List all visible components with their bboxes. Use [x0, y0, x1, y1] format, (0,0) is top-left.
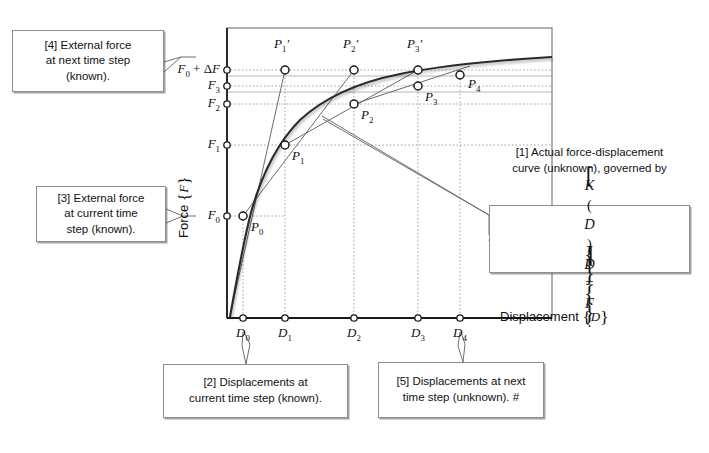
point-label-p2: P2 — [361, 107, 373, 125]
point-marker-p0 — [239, 212, 247, 220]
callout-box-1: [1] Actual force-displacement curve (unk… — [489, 205, 690, 273]
point-marker-p1-prime — [281, 66, 289, 74]
callout-3-line1: [3] External force — [58, 191, 145, 207]
callout-box-5: [5] Displacements at next time step (unk… — [378, 362, 544, 418]
point-marker-p2 — [350, 100, 358, 108]
callout-1-line1: [1] Actual force-displacement — [512, 145, 667, 161]
actual-force-displacement-curve — [230, 57, 552, 317]
callout-2-line2: current time step (known). — [189, 391, 322, 407]
callout-4-line2: at next time step — [45, 53, 132, 69]
point-label-p4: P4 — [468, 76, 480, 94]
x-tick-label-d3: D3 — [411, 325, 425, 343]
point-label-p3: P3 — [425, 89, 437, 107]
leader-box1-a — [322, 116, 489, 235]
callout-4-line3: (known). — [45, 69, 132, 85]
callout-box-2: [2] Displacements at current time step (… — [163, 364, 348, 418]
callout-1-equation: [K(D)]{D} = {F}. — [512, 176, 667, 333]
x-tick-label-d1: D1 — [278, 325, 292, 343]
point-label-p3-prime: P3′ — [407, 36, 422, 54]
callout-3-line2: at current time — [58, 206, 145, 222]
point-marker-p3-prime — [414, 66, 422, 74]
y-axis-title: Force {F} — [176, 148, 192, 238]
callout-5-line1: [5] Displacements at next — [396, 374, 525, 390]
x-tick-label-d0: D0 — [236, 325, 250, 343]
point-label-p1: P1 — [292, 148, 304, 166]
point-label-p0: P0 — [251, 219, 263, 237]
callout-4-line1: [4] External force — [45, 38, 132, 54]
callout-3-line3: step (known). — [58, 222, 145, 238]
point-label-p2-prime: P2′ — [343, 36, 358, 54]
y-tick-label-f2: F2 — [150, 95, 220, 113]
x-tick-label-d4: D4 — [453, 325, 467, 343]
force-rule-lines — [227, 76, 552, 92]
point-marker-p2-prime — [350, 66, 358, 74]
point-marker-p4 — [456, 71, 464, 79]
figure-canvas: F0 + ΔF F3 F2 F1 F0 D0 D1 D2 D3 D4 P0 P1… — [0, 0, 709, 453]
x-tick-label-d2: D2 — [347, 325, 361, 343]
leader-box1-b — [323, 119, 494, 241]
point-marker-p3 — [414, 82, 422, 90]
callout-2-line1: [2] Displacements at — [189, 375, 322, 391]
callout-5-line2: time step (unknown). # — [396, 390, 525, 406]
point-label-p1-prime: P1′ — [274, 36, 289, 54]
callout-box-4: [4] External force at next time step (kn… — [12, 30, 164, 92]
point-marker-p1 — [281, 141, 289, 149]
callout-box-3: [3] External force at current time step … — [36, 186, 166, 242]
